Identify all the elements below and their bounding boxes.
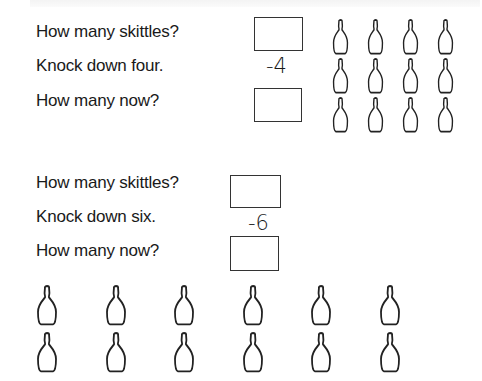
skittle-icon	[105, 332, 127, 373]
subtract-label: -6	[248, 212, 269, 234]
skittle-icon	[379, 332, 401, 373]
skittle-icon	[173, 332, 195, 373]
bleed-through-text	[30, 0, 480, 7]
skittle-icon	[402, 97, 419, 133]
skittle-icon	[105, 285, 127, 326]
prompt-knock-down: Knock down six.	[36, 207, 156, 227]
skittle-icon	[310, 285, 332, 326]
remaining-count-box[interactable]	[230, 236, 279, 271]
skittle-icon	[242, 285, 264, 326]
skittle-icon	[367, 58, 384, 94]
skittle-icon	[310, 332, 332, 373]
prompt-how-many-now: How many now?	[36, 91, 159, 111]
prompt-how-many-skittles: How many skittles?	[36, 173, 179, 193]
skittle-icon	[173, 285, 195, 326]
prompt-how-many-now: How many now?	[36, 241, 159, 261]
skittle-icon	[367, 97, 384, 133]
skittle-icon	[242, 332, 264, 373]
skittle-icon	[379, 285, 401, 326]
starting-count-box[interactable]	[254, 17, 303, 51]
skittle-icon	[437, 58, 454, 94]
skittle-icon	[36, 285, 58, 326]
starting-count-box[interactable]	[230, 175, 281, 208]
skittle-icon	[402, 19, 419, 55]
skittle-icon	[437, 97, 454, 133]
prompt-knock-down: Knock down four.	[36, 56, 163, 76]
skittle-icon	[437, 19, 454, 55]
prompt-how-many-skittles: How many skittles?	[36, 22, 179, 42]
skittle-icon	[367, 19, 384, 55]
remaining-count-box[interactable]	[254, 88, 302, 122]
skittle-icon	[36, 332, 58, 373]
skittle-icon	[402, 58, 419, 94]
subtract-label: -4	[266, 55, 287, 77]
skittle-icon	[332, 97, 349, 133]
skittle-icon	[332, 19, 349, 55]
skittle-icon	[332, 58, 349, 94]
